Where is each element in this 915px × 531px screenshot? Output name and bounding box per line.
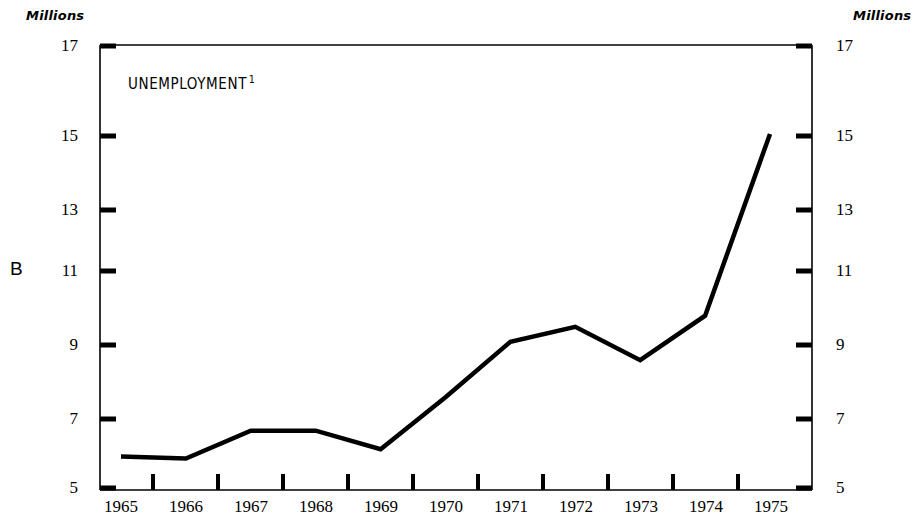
x-axis-label-1970: 1970 (411, 497, 481, 517)
chart-plot-area (0, 0, 915, 531)
y-tick-label-right-5: 7 (836, 409, 870, 429)
axis-frame (100, 45, 812, 490)
x-axis-label-1972: 1972 (541, 497, 611, 517)
y-tick-label-left-6: 5 (44, 478, 78, 498)
x-ticks (153, 474, 738, 490)
y-tick-label-left-1: 15 (44, 126, 78, 146)
y-tick-label-left-5: 7 (44, 409, 78, 429)
x-axis-label-1969: 1969 (346, 497, 416, 517)
y-tick-label-right-0: 17 (836, 36, 870, 56)
x-axis-label-1968: 1968 (281, 497, 351, 517)
x-axis-label-1966: 1966 (151, 497, 221, 517)
y-tick-label-left-3: 11 (44, 261, 78, 281)
series-line-unemployment (121, 134, 770, 459)
y-tick-label-left-2: 13 (44, 200, 78, 220)
y-tick-label-right-1: 15 (836, 126, 870, 146)
y-tick-label-right-3: 11 (836, 261, 870, 281)
x-axis-label-1973: 1973 (606, 497, 676, 517)
y-tick-label-left-4: 9 (44, 335, 78, 355)
y-ticks-left (100, 46, 116, 488)
unemployment-line-chart: Millions Millions B UNEMPLOYMENT1 (0, 0, 915, 531)
y-tick-label-right-6: 5 (836, 478, 870, 498)
x-axis-label-1965: 1965 (86, 497, 156, 517)
x-axis-label-1967: 1967 (216, 497, 286, 517)
y-tick-label-right-4: 9 (836, 335, 870, 355)
y-ticks-right (796, 46, 812, 488)
x-axis-label-1975: 1975 (736, 497, 806, 517)
x-axis-label-1974: 1974 (671, 497, 741, 517)
x-axis-label-1971: 1971 (476, 497, 546, 517)
y-tick-label-left-0: 17 (44, 36, 78, 56)
y-tick-label-right-2: 13 (836, 200, 870, 220)
